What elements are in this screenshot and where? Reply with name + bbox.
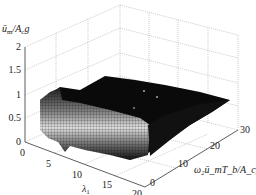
svg-text:20: 20 bbox=[210, 140, 220, 151]
svg-text:0: 0 bbox=[16, 136, 21, 147]
surface-plot: 2 1.5 1 0.5 0 0 5 10 15 20 0 10 20 30 ūm… bbox=[0, 0, 256, 195]
surface-mesh bbox=[40, 76, 230, 160]
z-axis-label: ūm/Acg bbox=[2, 23, 29, 36]
svg-text:0: 0 bbox=[20, 147, 25, 158]
svg-text:1.5: 1.5 bbox=[9, 64, 22, 75]
z-axis-ticks: 2 1.5 1 0.5 0 bbox=[9, 41, 22, 147]
svg-text:2: 2 bbox=[16, 41, 21, 52]
svg-text:0: 0 bbox=[150, 177, 155, 188]
x-axis-label: λ1 bbox=[81, 183, 90, 195]
svg-text:10: 10 bbox=[72, 169, 82, 180]
svg-text:5: 5 bbox=[46, 158, 51, 169]
y-axis-label: ω₂ū_mT_b/A_cg bbox=[194, 164, 256, 175]
svg-text:30: 30 bbox=[240, 124, 250, 135]
svg-text:20: 20 bbox=[132, 188, 142, 195]
svg-text:15: 15 bbox=[102, 179, 112, 190]
svg-text:0.5: 0.5 bbox=[9, 112, 22, 123]
svg-text:1: 1 bbox=[16, 89, 21, 100]
svg-text:10: 10 bbox=[178, 158, 188, 169]
